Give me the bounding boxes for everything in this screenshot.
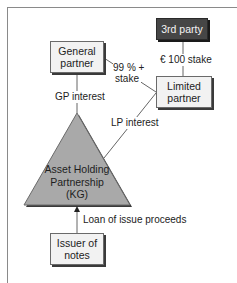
- asset-holding-line3: (KG): [27, 188, 127, 201]
- gp-interest-label: GP interest: [55, 91, 99, 103]
- asset-holding-line1: Asset Holding: [27, 163, 127, 176]
- issuer-line2: notes: [57, 249, 97, 262]
- third-party-box: 3rd party: [156, 18, 208, 40]
- issuer-line1: Issuer of: [57, 237, 97, 250]
- general-partner-line2: partner: [58, 57, 95, 70]
- gp-lp-stake-line1: 99 % +: [113, 62, 141, 73]
- gp-lp-stake-label: 99 % + stake: [113, 62, 141, 84]
- third-party-stake-text: € 100 stake: [160, 54, 212, 65]
- lp-interest-label: LP interest: [111, 117, 153, 129]
- loan-proceeds-text: Loan of issue proceeds: [83, 214, 186, 225]
- issuer-of-notes-box: Issuer of notes: [50, 233, 104, 265]
- third-party-stake-label: € 100 stake: [160, 54, 208, 66]
- third-party-label: 3rd party: [161, 23, 202, 36]
- limited-partner-box: Limited partner: [156, 76, 212, 108]
- loan-proceeds-label: Loan of issue proceeds: [83, 214, 186, 226]
- lp-interest-text: LP interest: [111, 117, 159, 128]
- gp-interest-text: GP interest: [55, 91, 105, 102]
- general-partner-line1: General: [58, 45, 95, 58]
- asset-holding-line2: Partnership: [27, 176, 127, 189]
- limited-partner-line1: Limited: [167, 80, 201, 93]
- limited-partner-line2: partner: [167, 92, 201, 105]
- gp-lp-stake-line2: stake: [113, 73, 141, 84]
- general-partner-box: General partner: [50, 41, 104, 73]
- asset-holding-label: Asset Holding Partnership (KG): [27, 163, 127, 201]
